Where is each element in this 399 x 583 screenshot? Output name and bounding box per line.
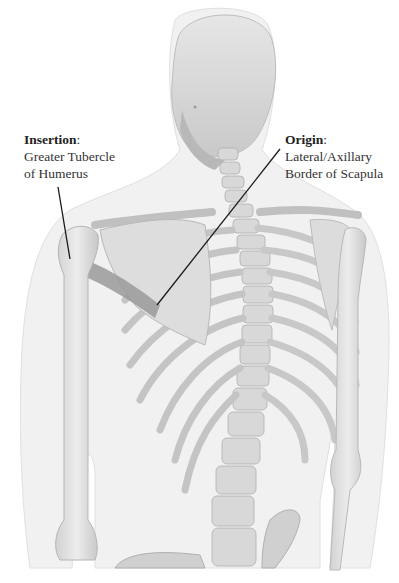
origin-line-1: Lateral/Axillary [285, 148, 383, 165]
skeleton-illustration [0, 0, 399, 583]
insertion-label: Insertion: Greater Tubercle of Humerus [24, 131, 115, 182]
origin-label: Origin: Lateral/Axillary Border of Scapu… [285, 131, 383, 182]
insertion-line-1: Greater Tubercle [24, 148, 115, 165]
origin-line-2: Border of Scapula [285, 165, 383, 182]
origin-title: Origin [285, 132, 323, 147]
insertion-line-2: of Humerus [24, 165, 115, 182]
insertion-title: Insertion [24, 132, 77, 147]
anatomy-diagram: Insertion: Greater Tubercle of Humerus O… [0, 0, 399, 583]
